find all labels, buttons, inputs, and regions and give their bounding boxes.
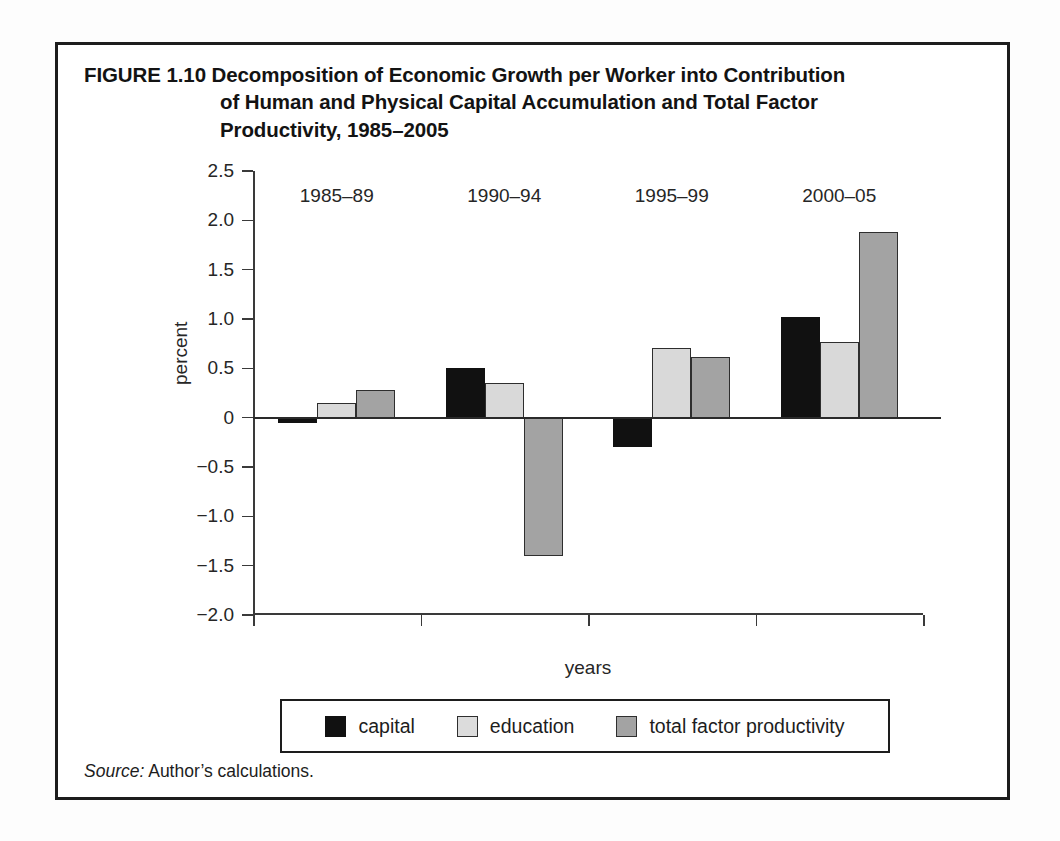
source-note: Source: Author’s calculations. [84, 761, 314, 782]
x-tick [588, 615, 590, 626]
bar-education-1990-94 [485, 383, 524, 418]
y-tick-label: −2.0 [196, 604, 234, 626]
y-tick-label: −1.5 [196, 555, 234, 577]
y-tick-label: 2.0 [208, 209, 234, 231]
legend-item-total-factor-productivity[interactable]: total factor productivity [616, 715, 844, 738]
bar-capital-1995-99 [613, 418, 652, 448]
y-tick: −1.5 [242, 565, 253, 567]
x-tick [923, 615, 925, 626]
chart-canvas: percent years 2.52.01.51.00.50−0.5−1.0−1… [58, 45, 1013, 803]
bar-total-factor-productivity-1990-94 [524, 418, 563, 556]
legend-label: capital [358, 715, 414, 738]
figure-page: FIGURE 1.10 Decomposition of Economic Gr… [0, 0, 1060, 841]
y-tick: 2.5 [242, 170, 253, 172]
bar-capital-2000-05 [781, 317, 820, 418]
y-tick-label: −1.0 [196, 505, 234, 527]
legend-swatch-icon [616, 716, 637, 737]
bar-total-factor-productivity-1985-89 [356, 390, 395, 418]
legend-label: total factor productivity [649, 715, 844, 738]
x-tick [421, 615, 423, 626]
y-tick-label: −0.5 [196, 456, 234, 478]
bar-capital-1990-94 [446, 368, 485, 417]
y-axis-title: percent [170, 322, 192, 385]
figure-frame: FIGURE 1.10 Decomposition of Economic Gr… [55, 42, 1010, 800]
legend-label: education [490, 715, 575, 738]
y-tick: 2.0 [242, 220, 253, 222]
y-tick: −1.0 [242, 516, 253, 518]
y-tick: 1.5 [242, 269, 253, 271]
zero-baseline-extension [923, 417, 941, 419]
y-tick-label: 0 [223, 407, 234, 429]
bar-total-factor-productivity-2000-05 [859, 232, 898, 417]
y-tick: 0.5 [242, 368, 253, 370]
y-tick-label: 1.0 [208, 308, 234, 330]
bar-education-1985-89 [317, 403, 356, 418]
source-label: Source: [84, 761, 144, 781]
y-tick: −0.5 [242, 466, 253, 468]
x-tick-label: 1985–89 [300, 185, 374, 661]
bar-total-factor-productivity-1995-99 [691, 357, 730, 417]
bar-education-2000-05 [820, 342, 859, 418]
source-text: Author’s calculations. [148, 761, 314, 781]
y-tick-label: 0.5 [208, 357, 234, 379]
legend-swatch-icon [457, 716, 478, 737]
plot-area: 2.52.01.51.00.50−0.5−1.0−1.5−2.0 1985–89… [253, 171, 923, 615]
y-tick: 0 [242, 417, 253, 419]
x-tick [253, 615, 255, 626]
y-tick: 1.0 [242, 318, 253, 320]
bar-education-1995-99 [652, 348, 691, 418]
y-axis-line [253, 171, 255, 615]
chart-legend: capitaleducationtotal factor productivit… [280, 699, 890, 753]
zero-baseline [253, 417, 923, 419]
legend-item-education[interactable]: education [457, 715, 575, 738]
y-tick-label: 2.5 [208, 160, 234, 182]
y-tick-label: 1.5 [208, 259, 234, 281]
legend-item-capital[interactable]: capital [325, 715, 414, 738]
x-tick [756, 615, 758, 626]
y-tick: −2.0 [242, 614, 253, 616]
legend-swatch-icon [325, 716, 346, 737]
